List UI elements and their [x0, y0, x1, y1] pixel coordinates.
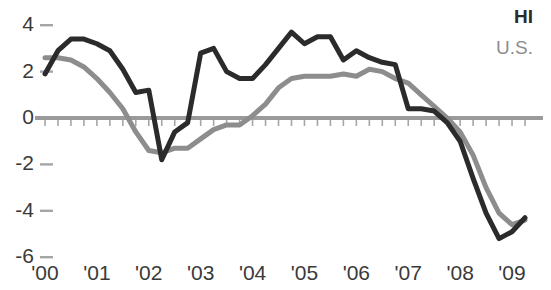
x-axis-label: '07 — [385, 262, 431, 284]
series-line-hi — [45, 32, 525, 238]
legend-item-hi: HI — [463, 7, 533, 27]
y-axis-label: 0 — [0, 106, 34, 127]
x-axis-label: '06 — [333, 262, 379, 284]
y-axis-label: -2 — [0, 152, 34, 173]
x-axis-label: '01 — [74, 262, 120, 284]
x-axis-label: '03 — [178, 262, 224, 284]
x-axis-label: '09 — [489, 262, 535, 284]
x-axis-label: '00 — [22, 262, 68, 284]
legend-item-us: U.S. — [463, 38, 533, 58]
x-axis-label: '04 — [230, 262, 276, 284]
x-axis-label: '02 — [126, 262, 172, 284]
y-axis-label: 4 — [0, 13, 34, 34]
x-axis-label: '08 — [437, 262, 483, 284]
x-axis-label: '05 — [281, 262, 327, 284]
y-axis-label: -4 — [0, 199, 34, 220]
chart-container: 420-2-4-6'00'01'02'03'04'05'06'07'08'09H… — [0, 0, 551, 290]
y-axis-label: 2 — [0, 60, 34, 81]
series-line-us — [45, 58, 525, 225]
